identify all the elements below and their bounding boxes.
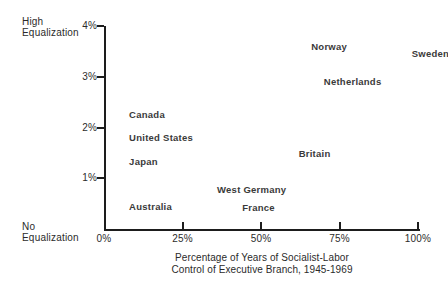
data-point-label: West Germany [217, 185, 286, 195]
y-axis-tick [97, 25, 104, 27]
y-axis-tick-label-text: 4% [63, 21, 97, 31]
y-axis-tick [97, 76, 104, 78]
data-point-label: Britain [299, 149, 331, 159]
x-axis-caption: Percentage of Years of Socialist-Labor C… [104, 252, 420, 275]
x-axis-tick [417, 222, 419, 229]
data-point-label: Netherlands [324, 77, 382, 87]
x-axis-tick-label: 25% [153, 233, 213, 244]
y-axis-no-equalization-label: No Equalization [22, 221, 79, 243]
x-axis-line [104, 229, 420, 231]
data-point-label: Japan [129, 157, 158, 167]
data-point-label: Australia [129, 202, 172, 212]
x-axis-tick-label: 0% [74, 233, 134, 244]
y-axis-tick-label-text: 2% [63, 123, 97, 133]
x-axis-tick [339, 222, 341, 229]
y-axis-tick [97, 177, 104, 179]
y-axis-no-equalization-line1: No [22, 221, 79, 232]
y-axis-tick-label-text: 1% [63, 173, 97, 183]
y-axis-tick-label: 4% [56, 21, 97, 31]
x-axis-caption-line1: Percentage of Years of Socialist-Labor [104, 252, 420, 264]
x-axis-tick [182, 222, 184, 229]
scatter-chart-figure: High Equalization No Equalization 1%2%3%… [0, 0, 448, 282]
y-axis-tick-label: 1% [56, 173, 97, 183]
x-axis-tick-label: 50% [231, 233, 291, 244]
data-point-label: Sweden [412, 49, 448, 59]
x-axis-tick [260, 222, 262, 229]
data-point-label: France [242, 203, 275, 213]
y-axis-no-equalization-line2: Equalization [22, 232, 79, 243]
x-axis-tick-label: 75% [310, 233, 370, 244]
data-point-label: Canada [129, 110, 165, 120]
data-point-label: Norway [311, 42, 347, 52]
y-axis-tick-label: 2% [56, 123, 97, 133]
x-axis-tick-label: 100% [388, 233, 448, 244]
y-axis-tick [97, 127, 104, 129]
y-axis-tick-label-text: 3% [63, 72, 97, 82]
y-axis-line [104, 26, 106, 231]
y-axis-tick-label: 3% [56, 72, 97, 82]
x-axis-caption-line2: Control of Executive Branch, 1945-1969 [104, 264, 420, 276]
data-point-label: United States [129, 133, 193, 143]
